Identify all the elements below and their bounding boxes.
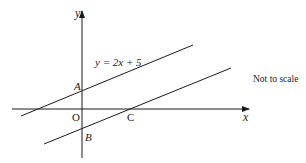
y-axis-label: y bbox=[74, 6, 81, 20]
coordinate-diagram: y x O y = 2x + 5 A B C Not to scale bbox=[0, 0, 306, 163]
parallel-line-bc bbox=[44, 68, 231, 144]
x-axis-label: x bbox=[242, 110, 249, 124]
origin-label: O bbox=[72, 111, 80, 123]
equation-label: y = 2x + 5 bbox=[94, 56, 142, 68]
point-a-label: A bbox=[73, 80, 81, 92]
point-c-label: C bbox=[127, 111, 134, 123]
point-b-label: B bbox=[85, 131, 92, 143]
not-to-scale-note: Not to scale bbox=[253, 74, 298, 84]
